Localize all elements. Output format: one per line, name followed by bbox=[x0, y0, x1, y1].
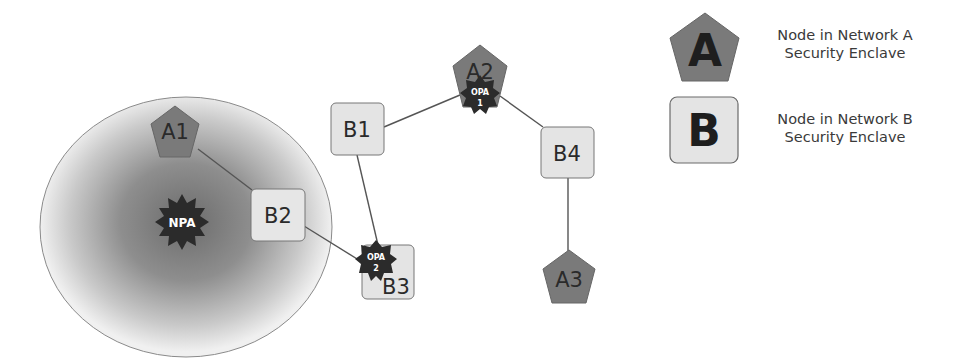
node-label: B1 bbox=[343, 118, 371, 142]
edge-b1-a2 bbox=[384, 95, 460, 127]
legend-b-line2: Security Enclave bbox=[752, 128, 938, 146]
node-label: B3 bbox=[382, 275, 410, 299]
npa-label: NPA bbox=[168, 216, 196, 230]
node-b2[interactable]: B2 bbox=[251, 189, 305, 241]
legend-a-letter: A bbox=[688, 25, 722, 76]
legend-b-line1: Node in Network B bbox=[752, 110, 938, 128]
opa1-label: OPA bbox=[471, 88, 490, 97]
node-label: A1 bbox=[161, 120, 189, 144]
node-label: B2 bbox=[264, 204, 292, 228]
legend-a-symbol: A bbox=[670, 13, 739, 81]
legend-a-line2: Security Enclave bbox=[752, 44, 938, 62]
legend-b-symbol: B bbox=[670, 97, 738, 163]
edge-a2-b4 bbox=[500, 96, 543, 127]
edge-b1-b3 bbox=[357, 155, 378, 245]
legend-a-line1: Node in Network A bbox=[752, 26, 938, 44]
node-a3[interactable]: A3 bbox=[543, 250, 595, 303]
node-b1[interactable]: B1 bbox=[331, 103, 384, 155]
legend-b-text: Node in Network B Security Enclave bbox=[752, 110, 938, 146]
opa1-number: 1 bbox=[477, 99, 483, 108]
node-label: B4 bbox=[553, 142, 581, 166]
opa2-label: OPA bbox=[367, 253, 386, 262]
legend-b-letter: B bbox=[687, 105, 721, 156]
opa2-number: 2 bbox=[373, 264, 379, 273]
node-b4[interactable]: B4 bbox=[541, 127, 594, 178]
legend-a-text: Node in Network A Security Enclave bbox=[752, 26, 938, 62]
node-label: A3 bbox=[555, 268, 583, 292]
